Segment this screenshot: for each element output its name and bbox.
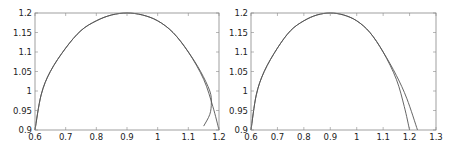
x-tick-label: 0.8 — [90, 132, 104, 142]
subplot-1: 0.60.70.80.911.11.20.90.9511.051.11.151.… — [13, 8, 226, 142]
axes-frame — [35, 13, 219, 130]
x-tick-label: 1.2 — [403, 132, 417, 142]
series-curve-b — [35, 13, 211, 130]
y-tick-label: 1.1 — [18, 47, 32, 57]
y-tick-label: 1.05 — [229, 67, 248, 77]
x-tick-label: 1.2 — [212, 132, 226, 142]
x-tick-label: 0.7 — [59, 132, 73, 142]
y-tick-label: 1.05 — [13, 67, 32, 77]
y-tick-label: 1.1 — [234, 47, 248, 57]
y-tick-label: 1.15 — [13, 28, 32, 38]
y-tick-label: 0.95 — [13, 106, 32, 116]
x-tick-label: 0.7 — [271, 132, 285, 142]
x-tick-label: 1 — [155, 132, 160, 142]
chart-figure: 0.60.70.80.911.11.20.90.9511.051.11.151.… — [0, 0, 455, 148]
series-curve-b — [251, 13, 418, 130]
y-tick-label: 1.2 — [18, 8, 32, 18]
series-curve-a — [251, 13, 410, 130]
x-tick-label: 1.1 — [376, 132, 390, 142]
x-tick-label: 0.9 — [324, 132, 338, 142]
y-tick-label: 0.9 — [18, 125, 32, 135]
subplot-2: 0.60.70.80.911.11.21.30.90.9511.051.11.1… — [229, 8, 443, 142]
x-tick-label: 1.1 — [182, 132, 196, 142]
series-curve-a — [35, 13, 219, 130]
y-tick-label: 1.15 — [229, 28, 248, 38]
x-tick-label: 1 — [354, 132, 359, 142]
y-tick-label: 0.95 — [229, 106, 248, 116]
x-tick-label: 0.8 — [297, 132, 311, 142]
y-tick-label: 1 — [243, 86, 248, 96]
y-tick-label: 0.9 — [234, 125, 248, 135]
y-tick-label: 1 — [27, 86, 32, 96]
y-tick-label: 1.2 — [234, 8, 248, 18]
x-tick-label: 0.9 — [120, 132, 134, 142]
x-tick-label: 1.3 — [429, 132, 443, 142]
axes-frame — [251, 13, 436, 130]
